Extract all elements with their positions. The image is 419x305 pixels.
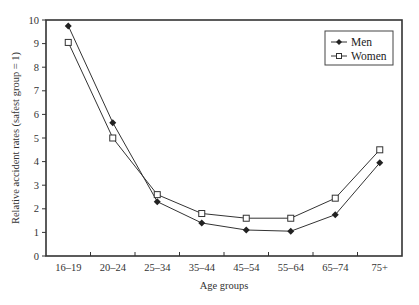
x-axis-title: Age groups	[200, 280, 249, 291]
y-tick-label: 9	[34, 38, 39, 49]
y-tick-label: 6	[34, 109, 39, 120]
chart-canvas: 012345678910 16–1920–2425–3435–4445–5455…	[0, 0, 419, 305]
x-tick-label: 35–44	[189, 262, 216, 273]
y-tick-label: 0	[34, 251, 39, 262]
data-point-women	[199, 211, 205, 217]
y-tick-label: 1	[34, 227, 39, 238]
open-square-icon	[337, 54, 342, 59]
legend-men-label: Men	[351, 36, 372, 48]
y-tick-label: 7	[34, 85, 39, 96]
data-point-women	[243, 215, 249, 221]
data-point-men	[65, 22, 72, 29]
y-tick-label: 2	[34, 203, 39, 214]
legend: Men Women	[325, 31, 393, 65]
data-point-women	[288, 215, 294, 221]
y-tick-label: 5	[34, 133, 39, 144]
data-point-men	[154, 198, 161, 205]
data-point-men	[109, 119, 116, 126]
x-tick-label: 20–24	[100, 262, 127, 273]
x-tick-label: 55–64	[278, 262, 305, 273]
y-tick-label: 3	[34, 180, 39, 191]
series-line-women	[68, 42, 380, 218]
x-axis-ticks: 16–1920–2425–3435–4445–5455–6465–7475+	[55, 252, 388, 273]
data-point-women	[154, 192, 160, 198]
data-point-women	[377, 147, 383, 153]
x-tick-label: 16–19	[55, 262, 81, 273]
data-point-women	[332, 195, 338, 201]
y-tick-label: 10	[29, 15, 40, 26]
data-point-women	[110, 135, 116, 141]
x-tick-label: 75+	[372, 262, 389, 273]
x-tick-label: 25–34	[144, 262, 171, 273]
y-tick-label: 8	[34, 62, 39, 73]
data-point-men	[287, 228, 294, 235]
y-tick-label: 4	[34, 156, 40, 167]
data-point-women	[65, 39, 71, 45]
y-axis-ticks: 012345678910	[29, 15, 47, 262]
data-point-men	[198, 219, 205, 226]
y-axis-title: Relative accident rates (safest group = …	[10, 51, 22, 224]
x-tick-label: 65–74	[322, 262, 349, 273]
data-point-men	[243, 227, 250, 234]
x-tick-label: 45–54	[233, 262, 260, 273]
legend-women-label: Women	[351, 50, 387, 62]
